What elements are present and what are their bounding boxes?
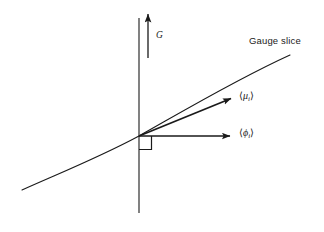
orthogonality-marker bbox=[139, 136, 152, 150]
phi-bracket-close: ⟩ bbox=[250, 127, 254, 138]
mu-expectation-vector bbox=[139, 99, 231, 137]
phi-vector-label: ⟨ϕi⟩ bbox=[239, 128, 254, 140]
gauge-field-label: G bbox=[156, 31, 163, 41]
gauge-slice-figure: Gauge slice G ⟨μi⟩ ⟨ϕi⟩ bbox=[0, 0, 324, 232]
mu-bracket-close: ⟩ bbox=[250, 90, 254, 101]
gauge-slice-label: Gauge slice bbox=[249, 36, 301, 46]
gauge-slice-curve bbox=[22, 55, 290, 190]
mu-vector-label: ⟨μi⟩ bbox=[239, 91, 254, 103]
